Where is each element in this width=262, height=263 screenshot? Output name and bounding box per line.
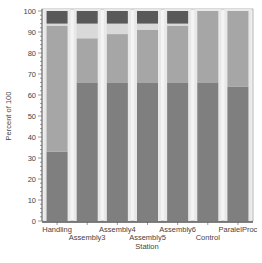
bar-paralelproc[interactable] (224, 9, 251, 221)
bar-segment-3 (137, 24, 158, 30)
bar-segment-4 (137, 11, 158, 24)
x-axis: HandlingAssembly3Assembly4Assembly5Assem… (42, 222, 258, 242)
bar-segment-2 (137, 30, 158, 83)
y-tick-label: 70 (28, 70, 36, 79)
y-tick-label: 100 (23, 7, 36, 16)
y-tick-label: 10 (28, 196, 36, 205)
y-tick-label: 40 (28, 133, 36, 142)
bar-segment-3 (77, 24, 98, 39)
y-axis: 0102030405060708090100 (23, 7, 42, 226)
bar-assembly4[interactable] (104, 9, 131, 221)
y-tick-label: 60 (28, 91, 36, 100)
bars-group (44, 9, 252, 221)
bar-segment-2 (77, 38, 98, 82)
bar-segment-1 (197, 82, 218, 221)
x-tick-label: Assembly6 (159, 225, 196, 234)
bar-segment-4 (47, 11, 68, 24)
bar-segment-3 (47, 24, 68, 26)
bar-segment-1 (107, 82, 128, 221)
bar-segment-2 (47, 26, 68, 152)
bar-handling[interactable] (44, 9, 71, 221)
x-tick-label: Control (196, 233, 221, 242)
bar-segment-4 (107, 11, 128, 24)
bar-segment-1 (47, 152, 68, 221)
bar-segment-4 (167, 11, 188, 24)
bar-control[interactable] (194, 9, 221, 221)
y-tick-label: 50 (28, 112, 36, 121)
y-tick-label: 30 (28, 154, 36, 163)
y-tick-label: 20 (28, 175, 36, 184)
y-tick-label: 0 (32, 217, 36, 226)
bar-segment-2 (107, 34, 128, 82)
bar-assembly3[interactable] (74, 9, 101, 221)
bar-segment-1 (77, 82, 98, 221)
y-tick-label: 80 (28, 49, 36, 58)
x-tick-label: ParalelProc (219, 225, 258, 234)
bar-segment-4 (77, 11, 98, 24)
bar-segment-1 (167, 82, 188, 221)
bar-segment-1 (227, 87, 248, 221)
bar-segment-3 (167, 24, 188, 26)
x-tick-label: Handling (42, 225, 72, 234)
stacked-bar-chart: 0102030405060708090100 HandlingAssembly3… (0, 0, 262, 263)
bar-segment-2 (197, 11, 218, 82)
bar-segment-2 (167, 26, 188, 83)
y-tick-label: 90 (28, 28, 36, 37)
bar-segment-2 (227, 11, 248, 87)
x-tick-label: Assembly3 (69, 233, 106, 242)
bar-segment-1 (137, 82, 158, 221)
y-axis-title: Percent of 100 (4, 92, 13, 141)
bar-assembly5[interactable] (134, 9, 161, 221)
bar-segment-3 (107, 24, 128, 34)
x-axis-title: Station (135, 242, 158, 251)
x-tick-label: Assembly5 (129, 233, 166, 242)
bar-assembly6[interactable] (164, 9, 191, 221)
